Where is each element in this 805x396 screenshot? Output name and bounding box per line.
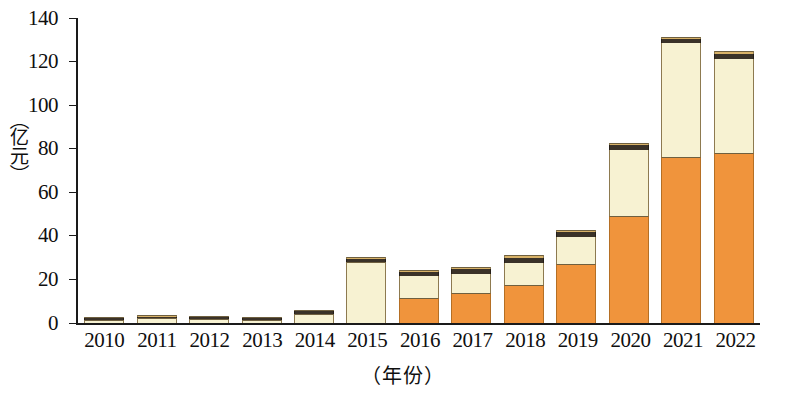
bar-column	[451, 18, 491, 323]
y-axis-title-open-paren: （	[11, 107, 27, 133]
bar-column	[346, 18, 386, 323]
y-tick-120: 120	[69, 61, 76, 62]
x-tick-label-2018: 2018	[499, 330, 552, 351]
x-tick-label-2013: 2013	[236, 330, 289, 351]
bar-segment-series-2-cream	[189, 319, 229, 323]
bar-segment-series-1-orange	[504, 285, 544, 323]
bar-column	[504, 18, 544, 323]
stacked-bar	[242, 317, 282, 323]
bar-segment-series-2-cream	[556, 237, 596, 264]
stacked-bar	[189, 316, 229, 323]
stacked-bar	[294, 310, 334, 323]
stacked-bar	[451, 267, 491, 323]
x-axis-line	[76, 323, 760, 325]
bar-segment-series-2-cream	[242, 320, 282, 323]
bar-column	[661, 18, 701, 323]
y-tick-label-100: 100	[28, 95, 58, 116]
y-tick-label-60: 60	[38, 182, 58, 203]
y-tick-label-0: 0	[48, 313, 58, 334]
bar-segment-series-2-cream	[714, 59, 754, 153]
bar-segment-series-1-orange	[399, 298, 439, 323]
x-tick-label-2016: 2016	[394, 330, 447, 351]
bar-column	[714, 18, 754, 323]
x-tick-label-2011: 2011	[131, 330, 184, 351]
y-tick-140: 140	[69, 18, 76, 19]
bar-segment-series-1-orange	[609, 216, 649, 323]
x-tick-label-2017: 2017	[446, 330, 499, 351]
bar-segment-series-1-orange	[451, 293, 491, 324]
stacked-bar	[84, 317, 124, 323]
x-tick-label-2021: 2021	[657, 330, 710, 351]
y-axis-title-close-paren: ）	[11, 161, 27, 187]
bar-segment-series-2-cream	[609, 150, 649, 216]
y-tick-40: 40	[69, 235, 76, 236]
y-tick-80: 80	[69, 148, 76, 149]
plot-area: 0 20 40 60 80 100 120 140	[76, 18, 760, 325]
y-tick-20: 20	[69, 279, 76, 280]
x-tick-label-2022: 2022	[709, 330, 762, 351]
x-axis-title: （年份）	[0, 360, 805, 389]
x-tick-label-2010: 2010	[78, 330, 131, 351]
y-tick-label-120: 120	[28, 51, 58, 72]
bar-column	[137, 18, 177, 323]
x-tick-label-2015: 2015	[341, 330, 394, 351]
stacked-bar	[346, 257, 386, 323]
bar-column	[84, 18, 124, 323]
bar-column	[609, 18, 649, 323]
y-tick-0: 0	[69, 323, 76, 324]
bar-segment-series-2-cream	[346, 262, 386, 323]
bar-segment-series-2-cream	[451, 274, 491, 293]
y-axis-title: （ 亿 元 ）	[6, 112, 32, 182]
bar-segment-series-2-cream	[294, 314, 334, 323]
stacked-bar	[556, 230, 596, 323]
x-tick-label-2014: 2014	[288, 330, 341, 351]
bar-segment-series-1-orange	[714, 153, 754, 323]
bar-column	[242, 18, 282, 323]
x-axis-tick-labels: 2010201120122013201420152016201720182019…	[78, 330, 762, 351]
stacked-bar	[609, 143, 649, 323]
stacked-bar	[399, 270, 439, 323]
y-tick-label-140: 140	[28, 8, 58, 29]
stacked-bar	[714, 51, 754, 323]
stacked-bar	[504, 255, 544, 323]
y-tick-label-20: 20	[38, 269, 58, 290]
bar-column	[294, 18, 334, 323]
bar-segment-series-2-cream	[84, 320, 124, 323]
bar-segment-series-2-cream	[661, 43, 701, 157]
bar-series-container	[78, 18, 760, 323]
bar-segment-series-2-cream	[137, 318, 177, 323]
bar-column	[556, 18, 596, 323]
bar-segment-series-2-cream	[504, 263, 544, 285]
bar-segment-series-2-cream	[399, 276, 439, 298]
y-tick-label-40: 40	[38, 225, 58, 246]
bar-segment-series-1-orange	[556, 264, 596, 323]
y-tick-60: 60	[69, 192, 76, 193]
bar-column	[189, 18, 229, 323]
x-tick-label-2012: 2012	[183, 330, 236, 351]
x-tick-label-2020: 2020	[604, 330, 657, 351]
bar-segment-series-1-orange	[661, 157, 701, 323]
stacked-bar	[137, 315, 177, 323]
stacked-bar-chart: 0 20 40 60 80 100 120 140 （ 亿 元 ） 201	[0, 0, 805, 396]
bar-column	[399, 18, 439, 323]
y-tick-label-80: 80	[38, 138, 58, 159]
stacked-bar	[661, 37, 701, 323]
y-tick-100: 100	[69, 105, 76, 106]
x-tick-label-2019: 2019	[551, 330, 604, 351]
